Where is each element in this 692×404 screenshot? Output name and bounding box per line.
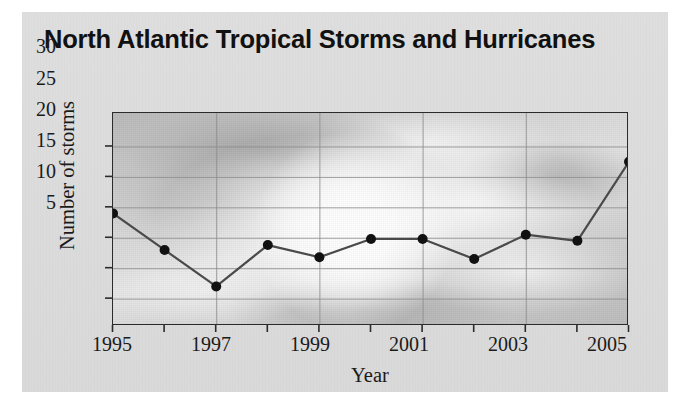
y-tick-label-10: 10 [0,161,56,181]
y-tick-label-20: 20 [0,99,56,119]
vertical-gridlines [217,113,527,325]
y-axis-ticks [105,146,112,298]
y-tick-label-15: 15 [0,130,56,150]
x-tick-label-2005: 2005 [567,334,647,354]
x-tick-label-1999: 1999 [270,334,350,354]
x-tick-label-1995: 1995 [72,334,152,354]
x-tick-label-2003: 2003 [468,334,548,354]
chart-title: North Atlantic Tropical Storms and Hurri… [44,24,604,55]
chart-svg [113,113,628,325]
x-axis-ticks [113,325,629,332]
y-axis-label: Number of storms [56,91,79,261]
y-tick-label-5: 5 [0,192,56,212]
chart-figure: North Atlantic Tropical Storms and Hurri… [22,12,668,392]
horizontal-gridlines [113,147,628,299]
x-tick-label-1997: 1997 [171,334,251,354]
x-axis-label: Year [112,364,628,387]
storm-count-line [113,162,628,287]
x-tick-label-2001: 2001 [369,334,449,354]
y-tick-label-30: 30 [0,36,56,56]
y-tick-label-25: 25 [0,68,56,88]
plot-area [112,112,628,325]
